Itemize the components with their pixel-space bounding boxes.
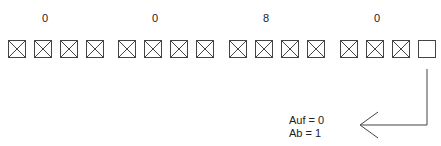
legend-ab: Ab = 1: [289, 127, 321, 139]
legend-auf: Auf = 0: [289, 114, 324, 126]
arrow-connector: [0, 0, 441, 146]
